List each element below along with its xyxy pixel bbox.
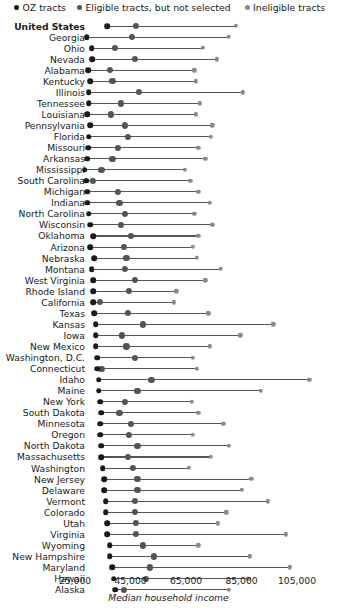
data-point-inelig [191,433,195,437]
connector-line [90,125,212,126]
row-label-iowa: Iowa [0,330,85,341]
data-point-elig [118,100,124,106]
data-point-oz [89,45,95,51]
data-point-oz [85,156,91,162]
data-point-oz [101,476,107,482]
connector-line [106,501,268,502]
chart-row: Florida [0,131,337,142]
row-label-west-virginia: West Virginia [0,275,85,286]
legend-label-oz-tracts: OZ tracts [23,3,66,12]
connector-line [92,59,216,60]
data-point-oz [86,134,92,140]
data-point-oz [87,222,93,228]
chart-row: West Virginia [0,275,337,286]
legend-label-ineligible-tracts: Ineligible tracts [253,3,325,12]
connector-line [112,567,290,568]
data-point-elig [122,266,128,272]
data-point-elig [119,332,125,338]
connector-line [106,512,227,513]
data-point-inelig [196,234,200,238]
data-point-elig [90,178,96,184]
data-point-elig [116,200,122,206]
connector-line [89,213,194,214]
data-point-elig [148,377,154,383]
data-point-oz [90,299,96,305]
data-point-inelig [216,521,220,525]
chart-row: New Hampshire [0,551,337,562]
row-label-utah: Utah [0,518,85,529]
legend-item-oz-tracts: OZ tracts [14,3,66,12]
data-point-inelig [266,499,270,503]
data-point-oz [94,366,100,372]
chart-row: Michigan [0,186,337,197]
row-label-illinois: Illinois [0,87,85,98]
row-label-south-carolina: South Carolina [0,175,85,186]
connector-line [94,313,208,314]
data-point-elig [122,211,128,217]
data-point-oz [82,167,88,173]
data-point-elig [125,454,131,460]
data-point-elig [129,34,135,40]
data-point-elig [133,531,139,537]
data-point-inelig [209,455,213,459]
x-axis-tick-labels: 25,00045,00065,00085,000105,000 [0,574,337,588]
data-point-elig [140,321,146,327]
row-label-new-jersey: New Jersey [0,474,85,485]
chart-row: Utah [0,518,337,529]
chart-row: Oklahoma [0,230,337,241]
row-label-maryland: Maryland [0,562,85,573]
chart-row: Maryland [0,562,337,573]
chart-row: Oregon [0,429,337,440]
data-point-oz [97,399,103,405]
row-label-nebraska: Nebraska [0,253,85,264]
data-point-oz [85,112,91,118]
data-point-oz [97,421,103,427]
connector-line [96,324,274,325]
legend-label-eligible-tracts: Eligible tracts, but not selected [85,3,230,12]
row-label-tennessee: Tennessee [0,98,85,109]
data-point-oz [99,454,105,460]
row-label-north-carolina: North Carolina [0,208,85,219]
data-point-inelig [196,543,200,547]
connector-line [107,26,236,27]
chart-row: North Carolina [0,208,337,219]
connector-line [87,114,195,115]
data-point-elig [126,432,132,438]
data-point-inelig [182,167,186,171]
row-label-georgia: Georgia [0,32,85,43]
data-point-inelig [210,223,214,227]
connector-line [94,258,197,259]
data-point-elig [132,509,138,515]
connector-line [87,191,198,192]
row-label-vermont: Vermont [0,496,85,507]
connector-line [89,92,243,93]
data-point-inelig [227,35,231,39]
data-point-elig [97,299,103,305]
data-point-inelig [288,565,292,569]
data-point-oz [87,78,93,84]
data-point-oz [99,410,105,416]
connector-line [93,280,205,281]
row-label-wisconsin: Wisconsin [0,219,85,230]
data-point-elig [109,78,115,84]
row-label-louisiana: Louisiana [0,109,85,120]
connector-line [100,434,193,435]
data-point-oz [92,311,98,317]
row-label-new-mexico: New Mexico [0,341,85,352]
data-point-oz [83,178,89,184]
data-point-inelig [241,90,245,94]
data-point-elig [133,23,139,29]
data-point-elig [126,288,132,294]
data-point-inelig [192,68,196,72]
connector-line [89,136,211,137]
data-point-inelig [214,57,218,61]
row-label-new-york: New York [0,396,85,407]
data-point-inelig [249,477,253,481]
data-point-oz [104,23,110,29]
connector-line [100,401,192,402]
data-point-elig [125,133,131,139]
data-point-oz [85,200,91,206]
row-label-michigan: Michigan [0,186,85,197]
x-tick-label: 65,000 [170,574,202,588]
data-point-inelig [188,178,192,182]
